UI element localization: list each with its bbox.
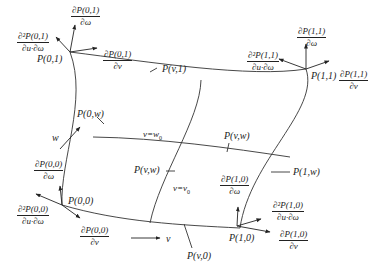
surface-patch-diagram: P(0,1) P(1,1) P(0,0) P(1,0) P(0,w) P(v,1… xyxy=(0,0,381,269)
tangent-v-label-p11: ∂P(1,1) ∂v xyxy=(339,70,368,91)
iso-curve-w0 xyxy=(93,137,290,157)
edge-label-p1w: P(1,w) xyxy=(293,167,320,177)
interior-label-pvw-left: P(v,w) xyxy=(134,165,160,175)
tangent-w-label-p10: ∂P(1,0) ∂ω xyxy=(220,175,249,196)
tangent-v-label-p00: ∂P(0,0) ∂v xyxy=(80,226,109,247)
edge-label-p0w: P(0,w) xyxy=(77,109,104,119)
corner-label-p01: P(0,1) xyxy=(37,54,62,64)
tangent-w-label-p11: ∂P(1,1) ∂ω xyxy=(297,27,326,48)
tangent-v-label-p10: ∂P(1,0) ∂v xyxy=(279,230,308,251)
tangent-w-label-p01: ∂P(0,1) ∂ω xyxy=(71,6,100,27)
axis-label-w: w xyxy=(52,133,59,143)
edge-left xyxy=(62,52,76,205)
iso-label-v0: v=v0 xyxy=(173,184,190,195)
edge-label-pv0: P(v,0) xyxy=(187,251,211,261)
iso-curve-v0 xyxy=(150,80,201,223)
tangent-w-label-p00: ∂P(0,0) ∂ω xyxy=(34,160,63,181)
corner-label-p11: P(1,1) xyxy=(311,71,336,81)
twist-vector-label-p11: ∂²P(1,1) ∂u·∂ω xyxy=(247,51,279,72)
axis-label-v: v xyxy=(166,234,170,244)
interior-label-pvw-top: P(v,w) xyxy=(224,131,250,141)
iso-label-w0: v=w0 xyxy=(143,130,162,141)
corner-label-p00: P(0,0) xyxy=(68,196,93,206)
edge-label-pv1: P(v,1) xyxy=(162,64,186,74)
twist-vector-label-p00: ∂²P(0,0) ∂u·∂ω xyxy=(17,205,49,226)
twist-vector-label-p01: ∂²P(0,1) ∂u·∂ω xyxy=(17,32,49,53)
tangent-v-label-p01: ∂P(0,1) ∂v xyxy=(103,50,132,71)
twist-vector-label-p10: ∂²P(1,0) ∂u·∂ω xyxy=(272,201,304,222)
corner-label-p10: P(1,0) xyxy=(229,233,254,243)
